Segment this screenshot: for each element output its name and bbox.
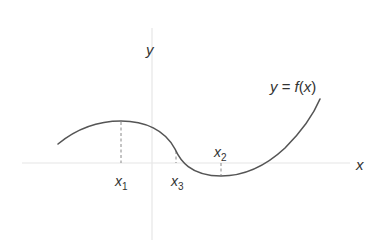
y-axis-label: y	[145, 41, 155, 58]
x3-label: x3	[170, 173, 184, 192]
x2-label: x2	[213, 144, 227, 163]
x1-label: x1	[114, 173, 128, 192]
x-axis-label: x	[355, 156, 364, 173]
function-graph: y x y = f(x) x1 x3 x2	[0, 0, 386, 243]
function-curve	[58, 99, 320, 176]
curve-label: y = f(x)	[269, 78, 316, 95]
